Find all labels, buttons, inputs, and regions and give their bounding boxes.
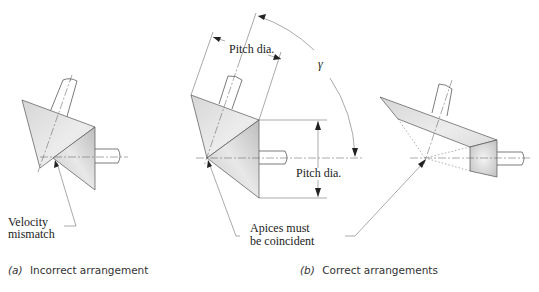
apices-label-2: be coincident	[250, 234, 315, 248]
velocity-label-2: mismatch	[8, 227, 55, 241]
pitch-dia-top-label: Pitch dia.	[229, 42, 274, 56]
panel-b-correct-2	[345, 80, 530, 236]
caption-a-letter: (a)	[8, 264, 23, 276]
diagram-canvas: Velocity mismatch (a) Incorrect arrangem…	[0, 0, 539, 292]
pinion-shaft-b1	[219, 76, 242, 109]
pitch-dia-side-label: Pitch dia.	[296, 166, 341, 180]
caption-a: (a) Incorrect arrangement	[8, 264, 148, 276]
gear-left-b2	[380, 97, 497, 147]
gear-shaft-b1	[259, 151, 287, 164]
caption-b: (b) Correct arrangements	[300, 264, 438, 276]
caption-b-text: Correct arrangements	[322, 264, 438, 276]
gear-shaft-b2	[497, 152, 524, 165]
gamma-label: γ	[318, 57, 323, 71]
apices-label-1: Apices must	[250, 221, 310, 235]
panel-b-correct-1: Pitch dia. Pitch dia. γ	[191, 13, 362, 236]
caption-a-text: Incorrect arrangement	[30, 264, 148, 276]
pitch-dia-side-dimension	[259, 120, 327, 198]
pinion-shaft-b2	[432, 84, 452, 116]
gear-shaft-a	[95, 149, 120, 163]
caption-b-letter: (b)	[300, 264, 315, 276]
panel-a-incorrect: Velocity mismatch (a) Incorrect arrangem…	[8, 75, 148, 276]
bevel-gear-diagram: Velocity mismatch (a) Incorrect arrangem…	[0, 0, 539, 292]
apices-leader-right	[345, 159, 426, 236]
